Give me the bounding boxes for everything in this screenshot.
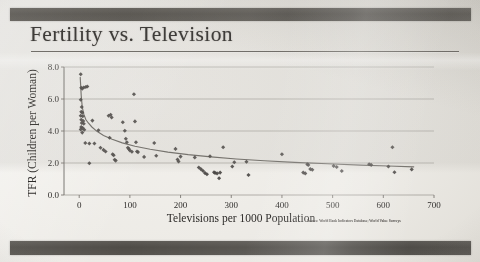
bottom-decorative-band: [10, 241, 471, 255]
scatter-point: [142, 155, 146, 159]
top-decorative-band: [10, 8, 471, 21]
y-tick-label: 2.0: [48, 158, 60, 168]
scatter-point: [218, 171, 222, 175]
y-tick-label: 8.0: [48, 62, 60, 72]
scatter-point: [173, 147, 177, 151]
scatter-point: [80, 105, 84, 109]
scatter-point: [133, 119, 137, 123]
trend-line: [80, 77, 414, 166]
scatter-point: [410, 167, 414, 171]
scatter-point: [392, 170, 396, 174]
x-tick-label: 300: [225, 200, 239, 210]
scatter-point: [232, 160, 236, 164]
y-tick-label: 0.0: [48, 190, 60, 200]
scatter-point: [83, 141, 87, 145]
x-tick-label: 100: [123, 200, 137, 210]
scatter-point: [280, 152, 284, 156]
scatter-point: [386, 164, 390, 168]
scatter-point: [217, 176, 221, 180]
scatter-point: [152, 141, 156, 145]
scatter-point: [179, 155, 183, 159]
scatter-point: [123, 129, 127, 133]
title-underline-rule: [31, 51, 459, 52]
scatter-point: [221, 145, 225, 149]
x-tick-label: 200: [174, 200, 188, 210]
scatter-point: [121, 120, 125, 124]
x-tick-label: 400: [275, 200, 289, 210]
source-citation: Source: World Bank Indicators Database; …: [307, 219, 415, 225]
scatter-chart: 0.02.04.06.08.00100200300400500600700Tel…: [22, 58, 452, 226]
scatter-point: [124, 137, 128, 141]
slide-title: Fertility vs. Television: [30, 22, 233, 47]
slide-photo: Fertility vs. Television 0.02.04.06.08.0…: [0, 0, 480, 262]
x-tick-label: 500: [326, 200, 340, 210]
scatter-point: [340, 169, 344, 173]
x-tick-label: 0: [77, 200, 82, 210]
scatter-point: [134, 140, 138, 144]
x-axis-title: Televisions per 1000 Population: [167, 212, 316, 225]
y-tick-label: 6.0: [48, 94, 60, 104]
scatter-point: [87, 141, 91, 145]
scatter-point: [79, 72, 83, 76]
scatter-point: [154, 154, 158, 158]
x-tick-label: 600: [377, 200, 391, 210]
chart-canvas: 0.02.04.06.08.00100200300400500600700Tel…: [22, 58, 452, 226]
y-axis-title: TFR (Children per Woman): [26, 69, 39, 197]
y-tick-label: 4.0: [48, 126, 60, 136]
scatter-point: [87, 161, 91, 165]
scatter-point: [208, 154, 212, 158]
scatter-point: [90, 119, 94, 123]
x-tick-label: 700: [427, 200, 441, 210]
scatter-point: [92, 141, 96, 145]
scatter-point: [246, 173, 250, 177]
scatter-point: [390, 145, 394, 149]
scatter-point: [230, 164, 234, 168]
scatter-point: [132, 92, 136, 96]
scatter-point: [98, 146, 102, 150]
